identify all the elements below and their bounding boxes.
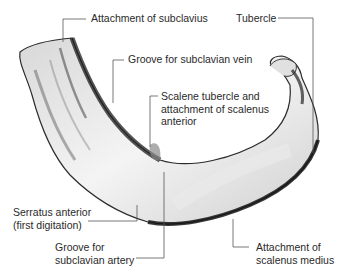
- label-line: Attachment of: [256, 241, 334, 254]
- leader-artery: [136, 172, 164, 258]
- label-line: subclavian artery: [55, 254, 134, 267]
- leader-subclavius: [63, 19, 86, 42]
- label-line: Scalene tubercle and: [161, 90, 269, 103]
- label-line: anterior: [161, 115, 269, 128]
- label-text: Attachment of subclavius: [91, 12, 208, 24]
- label-serratus-anterior: Serratus anterior (first digitation): [13, 206, 91, 231]
- label-text: Tubercle: [236, 12, 276, 24]
- leader-tubercle: [278, 18, 313, 153]
- label-line: Serratus anterior: [13, 206, 91, 219]
- leader-vein: [113, 60, 124, 103]
- label-line: scalenus medius: [256, 254, 334, 267]
- label-line: attachment of scalenus: [161, 103, 269, 116]
- label-groove-subclavian-artery: Groove for subclavian artery: [55, 241, 134, 266]
- leader-lines: [0, 0, 346, 274]
- rib-diagram: Attachment of subclavius Tubercle Groove…: [0, 0, 346, 274]
- label-line: Groove for: [55, 241, 134, 254]
- label-tubercle: Tubercle: [236, 12, 276, 25]
- label-scalenus-medius: Attachment of scalenus medius: [256, 241, 334, 266]
- label-line: (first digitation): [13, 219, 91, 232]
- label-scalene-tubercle: Scalene tubercle and attachment of scale…: [161, 90, 269, 128]
- leader-medius: [233, 219, 249, 247]
- label-text: Groove for subclavian vein: [128, 53, 252, 65]
- label-attachment-subclavius: Attachment of subclavius: [91, 12, 208, 25]
- leader-serratus: [88, 205, 137, 221]
- label-groove-subclavian-vein: Groove for subclavian vein: [128, 53, 252, 66]
- leader-scalene: [150, 96, 158, 147]
